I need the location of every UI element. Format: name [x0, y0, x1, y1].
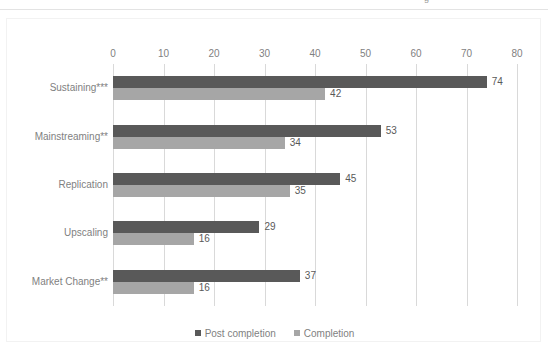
gridline-70 — [467, 64, 468, 306]
bar-value-label: 34 — [290, 137, 301, 149]
chart-legend: Post completionCompletion — [7, 327, 542, 341]
bar — [113, 233, 194, 245]
legend-swatch-icon — [294, 330, 300, 336]
chart-plot-frame: 01020304050607080 Sustaining***Mainstrea… — [6, 18, 541, 342]
gridline-80 — [517, 64, 518, 306]
bar — [113, 185, 290, 197]
category-label: Sustaining*** — [8, 82, 108, 94]
bar-value-label: 16 — [199, 233, 210, 245]
category-label: Market Change** — [8, 276, 108, 288]
bar-value-label: 74 — [492, 76, 503, 88]
top-divider-rule — [0, 9, 548, 10]
category-label: Replication — [8, 179, 108, 191]
y-axis-category-labels: Sustaining***Mainstreaming**ReplicationU… — [7, 64, 108, 306]
clipped-text-fragment: g — [424, 0, 429, 3]
x-tick-70: 70 — [447, 48, 487, 60]
legend-item[interactable]: Completion — [294, 327, 355, 341]
x-tick-20: 20 — [194, 48, 234, 60]
legend-label: Completion — [304, 327, 355, 341]
bar — [113, 221, 259, 233]
bar-value-label: 35 — [295, 185, 306, 197]
legend-label: Post completion — [205, 327, 276, 341]
bar-value-label: 29 — [264, 221, 275, 233]
category-label: Upscaling — [8, 227, 108, 239]
bar — [113, 125, 381, 137]
bar-value-label: 42 — [330, 88, 341, 100]
x-tick-0: 0 — [93, 48, 133, 60]
bar — [113, 173, 340, 185]
legend-item[interactable]: Post completion — [195, 327, 276, 341]
x-tick-60: 60 — [396, 48, 436, 60]
bar-value-label: 53 — [386, 125, 397, 137]
bar — [113, 270, 300, 282]
bar-chart: g 01020304050607080 Sustaining***Mainstr… — [0, 0, 548, 347]
legend-swatch-icon — [195, 330, 201, 336]
x-tick-10: 10 — [144, 48, 184, 60]
bar-value-label: 45 — [345, 173, 356, 185]
bar — [113, 137, 285, 149]
gridline-50 — [366, 64, 367, 306]
bar-value-label: 37 — [305, 270, 316, 282]
bar-value-label: 16 — [199, 282, 210, 294]
x-tick-80: 80 — [497, 48, 537, 60]
bar — [113, 282, 194, 294]
x-tick-50: 50 — [346, 48, 386, 60]
bar — [113, 76, 487, 88]
x-tick-40: 40 — [295, 48, 335, 60]
gridline-60 — [416, 64, 417, 306]
bar — [113, 88, 325, 100]
x-tick-30: 30 — [245, 48, 285, 60]
plot-area: 74425334453529163716 — [113, 64, 517, 306]
category-label: Mainstreaming** — [8, 131, 108, 143]
